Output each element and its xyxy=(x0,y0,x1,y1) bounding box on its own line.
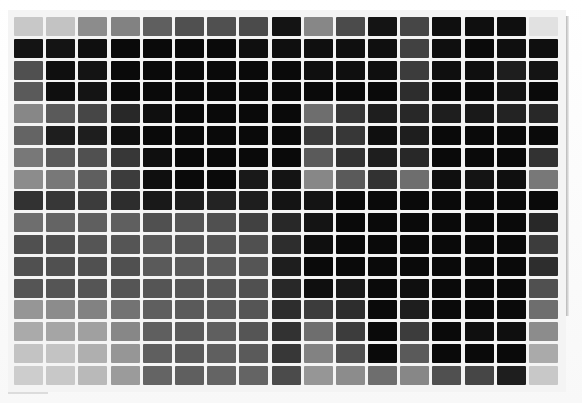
swatch xyxy=(368,213,397,232)
swatch xyxy=(465,82,494,101)
swatch xyxy=(207,82,236,101)
swatch xyxy=(497,17,526,36)
swatch xyxy=(46,61,75,80)
swatch xyxy=(207,61,236,80)
swatch xyxy=(400,148,429,167)
swatch xyxy=(143,344,172,363)
swatch xyxy=(111,279,140,298)
swatch xyxy=(14,17,43,36)
swatch xyxy=(432,104,461,123)
swatch xyxy=(14,126,43,145)
swatch xyxy=(432,170,461,189)
swatch xyxy=(432,344,461,363)
swatch xyxy=(239,82,268,101)
swatch xyxy=(143,17,172,36)
swatch xyxy=(336,104,365,123)
swatch xyxy=(432,82,461,101)
swatch xyxy=(497,148,526,167)
paper-bottom-edge xyxy=(8,392,48,394)
swatch xyxy=(14,279,43,298)
swatch xyxy=(368,61,397,80)
swatch xyxy=(304,257,333,276)
swatch xyxy=(272,235,301,254)
swatch xyxy=(368,257,397,276)
swatch xyxy=(432,279,461,298)
swatch xyxy=(207,104,236,123)
swatch xyxy=(272,61,301,80)
swatch xyxy=(400,257,429,276)
swatch xyxy=(465,257,494,276)
swatch xyxy=(78,322,107,341)
swatch xyxy=(207,322,236,341)
swatch xyxy=(529,148,558,167)
swatch xyxy=(304,279,333,298)
swatch xyxy=(529,61,558,80)
swatch xyxy=(497,104,526,123)
swatch xyxy=(143,213,172,232)
swatch xyxy=(304,126,333,145)
swatch xyxy=(14,344,43,363)
swatch xyxy=(304,17,333,36)
swatch xyxy=(175,322,204,341)
swatch xyxy=(272,191,301,210)
swatch xyxy=(465,39,494,58)
swatch xyxy=(78,126,107,145)
swatch xyxy=(239,126,268,145)
swatch xyxy=(111,126,140,145)
swatch xyxy=(239,322,268,341)
swatch xyxy=(304,300,333,319)
swatch xyxy=(368,322,397,341)
swatch xyxy=(304,344,333,363)
swatch xyxy=(368,39,397,58)
swatch xyxy=(465,344,494,363)
swatch xyxy=(143,257,172,276)
swatch xyxy=(175,126,204,145)
swatch xyxy=(272,300,301,319)
swatch xyxy=(46,300,75,319)
swatch xyxy=(272,344,301,363)
swatch xyxy=(207,170,236,189)
swatch xyxy=(78,344,107,363)
swatch xyxy=(78,39,107,58)
swatch xyxy=(14,39,43,58)
swatch xyxy=(46,148,75,167)
swatch xyxy=(175,257,204,276)
swatch xyxy=(111,366,140,385)
swatch xyxy=(368,148,397,167)
swatch xyxy=(497,213,526,232)
swatch xyxy=(143,104,172,123)
swatch xyxy=(14,170,43,189)
swatch xyxy=(336,126,365,145)
swatch xyxy=(336,17,365,36)
swatch xyxy=(497,191,526,210)
swatch xyxy=(529,300,558,319)
swatch xyxy=(272,104,301,123)
swatch xyxy=(529,170,558,189)
swatch xyxy=(175,213,204,232)
swatch xyxy=(207,257,236,276)
swatch xyxy=(368,300,397,319)
swatch xyxy=(272,366,301,385)
swatch xyxy=(78,61,107,80)
swatch xyxy=(175,148,204,167)
swatch xyxy=(239,104,268,123)
swatch xyxy=(336,61,365,80)
swatch xyxy=(207,39,236,58)
swatch xyxy=(239,235,268,254)
swatch xyxy=(336,344,365,363)
swatch xyxy=(432,17,461,36)
swatch xyxy=(400,104,429,123)
swatch xyxy=(143,300,172,319)
swatch xyxy=(78,279,107,298)
swatch xyxy=(432,61,461,80)
swatch xyxy=(78,191,107,210)
swatch xyxy=(175,61,204,80)
swatch xyxy=(207,213,236,232)
swatch xyxy=(111,17,140,36)
swatch xyxy=(175,104,204,123)
swatch xyxy=(465,366,494,385)
swatch xyxy=(497,344,526,363)
swatch xyxy=(78,148,107,167)
swatch xyxy=(400,300,429,319)
swatch xyxy=(111,191,140,210)
